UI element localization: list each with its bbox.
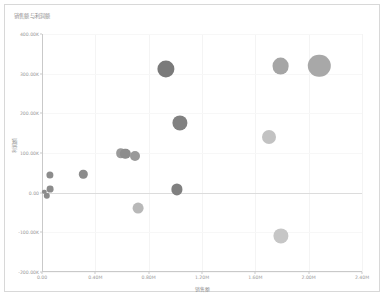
x-tick-label: 1.20M [195, 275, 209, 280]
data-point-bubble[interactable] [47, 186, 54, 193]
y-tick-label: 100.00K [20, 151, 39, 156]
x-tick-mark [255, 272, 256, 274]
chart-frame: 销售额与利润额 400.00K300.00K200.00K100.00K0.00… [4, 4, 380, 292]
x-tick-label: 1.60M [248, 275, 262, 280]
chart-title: 销售额与利润额 [14, 13, 50, 20]
gridline-horizontal [42, 153, 362, 154]
x-tick-label: 0.00 [37, 275, 47, 280]
x-tick-label: 0.40M [88, 275, 102, 280]
gridline-horizontal [42, 113, 362, 114]
y-tick-mark [40, 34, 42, 35]
y-tick-label: -100.00K [18, 230, 39, 235]
y-tick-label: 400.00K [20, 32, 39, 37]
x-axis-title: 销售额 [195, 287, 210, 292]
y-tick-label: -200.00K [18, 270, 39, 275]
x-tick-mark [148, 272, 149, 274]
y-tick-label: 200.00K [20, 111, 39, 116]
x-tick-label: 2.00M [302, 275, 316, 280]
data-point-bubble[interactable] [133, 202, 144, 213]
y-axis-title: 利润额 [12, 138, 17, 153]
x-tick-mark [95, 272, 96, 274]
y-axis-line [42, 34, 43, 272]
x-tick-mark [42, 272, 43, 274]
gridline-horizontal [42, 34, 362, 35]
y-tick-label: 300.00K [20, 71, 39, 76]
data-point-bubble[interactable] [272, 57, 289, 74]
gridline-vertical [362, 34, 363, 272]
plot-area: 400.00K300.00K200.00K100.00K0.00-100.00K… [42, 34, 362, 272]
data-point-bubble[interactable] [262, 130, 276, 144]
x-tick-mark [362, 272, 363, 274]
x-tick-mark [202, 272, 203, 274]
y-tick-mark [40, 232, 42, 233]
y-tick-mark [40, 113, 42, 114]
y-tick-label: 0.00 [29, 190, 39, 195]
x-tick-label: 0.80M [142, 275, 156, 280]
data-point-bubble[interactable] [130, 151, 140, 161]
gridline-horizontal [42, 232, 362, 233]
y-tick-mark [40, 153, 42, 154]
x-tick-label: 2.40M [355, 275, 369, 280]
x-tick-mark [308, 272, 309, 274]
y-tick-mark [40, 73, 42, 74]
zero-reference-line [42, 193, 362, 194]
